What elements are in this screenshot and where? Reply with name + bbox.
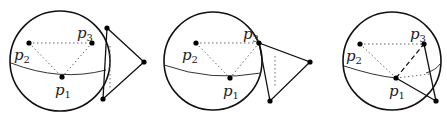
triangle-vertex-top [104, 25, 109, 30]
label-p1: p1 [389, 82, 405, 101]
point-p1 [393, 75, 398, 80]
three-sphere-diagram: p1 p2 p3 p1 p2 p3 [0, 0, 447, 120]
dotted-triangle-p1p2p3 [360, 44, 430, 78]
panel-1: p1 p2 p3 [10, 11, 147, 111]
panel-3: p1 p2 p3 [343, 12, 441, 110]
point-p1 [59, 74, 64, 79]
triangle-vertex-right [141, 59, 146, 64]
equator-curve [344, 66, 396, 78]
label-p3: p3 [77, 24, 93, 43]
equator-curve [164, 65, 261, 76]
point-p2 [357, 41, 362, 46]
label-p3: p3 [410, 25, 426, 44]
triangle-vertex-bottom [267, 98, 272, 103]
triangle-vertex-right [307, 59, 312, 64]
label-p1: p1 [223, 82, 239, 101]
point-p1 [227, 75, 232, 80]
triangle-vertex-bottom [100, 96, 105, 101]
label-p1: p1 [55, 81, 71, 100]
outer-triangle [259, 43, 310, 101]
label-p2: p2 [346, 47, 362, 66]
label-p3: p3 [243, 25, 259, 44]
dashed-edge-p1-p3 [396, 44, 424, 78]
label-p2: p2 [182, 46, 198, 65]
point-p2 [26, 40, 31, 45]
panel-2: p1 p2 p3 [164, 12, 313, 110]
label-p2: p2 [14, 46, 30, 65]
triangle-vertex-bottom [433, 98, 438, 103]
dotted-triangle-p1p2p3 [29, 43, 92, 77]
point-p2 [193, 40, 198, 45]
dotted-triangle-p1p2p3 [196, 43, 259, 78]
